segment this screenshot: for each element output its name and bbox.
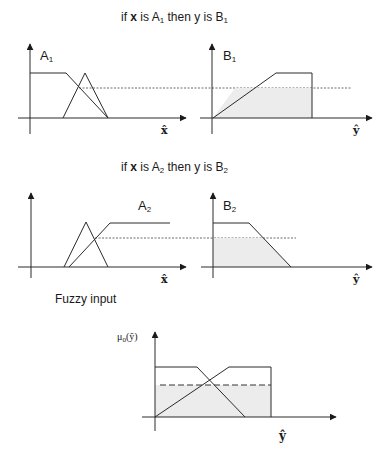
- aggregated-area: [155, 385, 271, 417]
- fuzzy-inference-diagram: [0, 0, 384, 456]
- chart-b2: [201, 193, 372, 278]
- chart-b1: [200, 44, 372, 134]
- clipped-area-b2: [213, 238, 291, 267]
- input-triangle: [64, 222, 108, 267]
- chart-output: [142, 332, 336, 431]
- membership-a2: [69, 223, 170, 267]
- clipped-area-b1: [213, 88, 312, 118]
